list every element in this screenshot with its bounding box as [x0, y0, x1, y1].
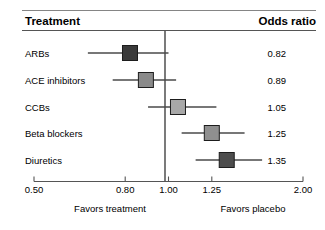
forest-row: Diuretics1.35: [25, 153, 286, 168]
odds-ratio-value: 1.35: [268, 155, 287, 166]
column-header-treatment: Treatment: [25, 15, 80, 27]
point-estimate-marker: [138, 73, 153, 88]
axis-tick-label: 2.00: [294, 184, 313, 195]
point-estimate-marker: [204, 126, 219, 141]
forest-plot: Treatment Odds ratio ARBs0.82ACE inhibit…: [0, 0, 325, 230]
row-label-beta-blockers: Beta blockers: [25, 128, 83, 139]
row-label-diuretics: Diuretics: [25, 155, 62, 166]
row-label-arbs: ARBs: [25, 48, 50, 59]
point-estimate-marker: [219, 153, 234, 168]
point-estimate-marker: [170, 100, 185, 115]
point-estimate-marker: [122, 46, 137, 61]
odds-ratio-value: 0.82: [268, 48, 287, 59]
axis-tick-label: 0.50: [25, 184, 44, 195]
x-axis: 0.500.801.001.252.00: [25, 177, 313, 195]
odds-ratio-value: 1.25: [268, 128, 287, 139]
column-header-odds-ratio: Odds ratio: [258, 15, 316, 27]
forest-row: CCBs1.05: [25, 100, 286, 115]
odds-ratio-value: 1.05: [268, 102, 287, 113]
axis-tick-label: 1.25: [203, 184, 222, 195]
forest-row: ACE inhibitors0.89: [25, 73, 286, 88]
axis-tick-label: 0.80: [116, 184, 135, 195]
footer-label-favors-placebo: Favors placebo: [221, 203, 286, 214]
forest-row: ARBs0.82: [25, 46, 286, 61]
row-label-ace-inhibitors: ACE inhibitors: [25, 75, 85, 86]
footer-label-favors-treatment: Favors treatment: [74, 203, 146, 214]
odds-ratio-value: 0.89: [268, 75, 287, 86]
forest-row: Beta blockers1.25: [25, 126, 286, 141]
row-label-ccbs: CCBs: [25, 102, 50, 113]
axis-tick-label: 1.00: [159, 184, 178, 195]
data-rows-layer: ARBs0.82ACE inhibitors0.89CCBs1.05Beta b…: [25, 46, 286, 168]
